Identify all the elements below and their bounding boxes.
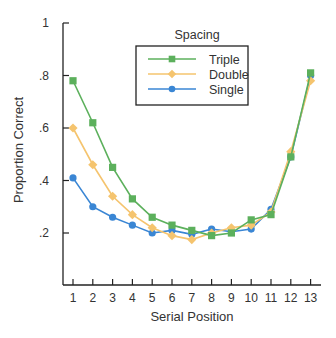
x-tick-label: 13: [304, 291, 318, 305]
y-tick-label: .2: [39, 226, 49, 240]
legend-label: Triple: [209, 53, 240, 67]
x-tick-label: 10: [245, 291, 259, 305]
y-tick-label: .6: [39, 121, 49, 135]
x-tick-label: 7: [188, 291, 195, 305]
square-marker: [307, 69, 314, 76]
line-chart: .2.4.6.8112345678910111213 SpacingTriple…: [0, 0, 336, 338]
square-marker: [188, 227, 195, 234]
x-tick-label: 6: [169, 291, 176, 305]
diamond-marker: [68, 123, 77, 132]
x-tick-label: 2: [89, 291, 96, 305]
square-marker: [267, 211, 274, 218]
y-tick-label: .4: [39, 174, 49, 188]
square-marker: [69, 77, 76, 84]
x-tick-label: 9: [228, 291, 235, 305]
circle-marker: [169, 86, 176, 93]
diamond-marker: [88, 160, 97, 169]
x-tick-label: 8: [208, 291, 215, 305]
x-tick-label: 4: [129, 291, 136, 305]
square-marker: [287, 153, 294, 160]
y-axis-label: Proportion Correct: [11, 97, 26, 204]
square-marker: [248, 216, 255, 223]
square-marker: [89, 119, 96, 126]
square-marker: [168, 222, 175, 229]
x-tick-label: 11: [265, 291, 278, 305]
legend: SpacingTripleDoubleSingle: [136, 28, 249, 105]
square-marker: [129, 195, 136, 202]
circle-marker: [129, 222, 136, 229]
circle-marker: [109, 214, 116, 221]
diamond-marker: [167, 231, 176, 240]
legend-label: Double: [209, 68, 249, 82]
x-tick-label: 3: [109, 291, 116, 305]
x-tick-label: 5: [149, 291, 156, 305]
y-tick-label: 1: [42, 16, 49, 30]
x-tick-label: 1: [70, 291, 77, 305]
square-marker: [169, 56, 176, 63]
square-marker: [228, 229, 235, 236]
legend-label: Single: [209, 83, 244, 97]
x-tick-label: 12: [284, 291, 298, 305]
circle-marker: [89, 203, 96, 210]
legend-title: Spacing: [174, 28, 219, 42]
diamond-marker: [187, 235, 196, 244]
y-tick-label: .8: [39, 69, 49, 83]
circle-marker: [69, 174, 76, 181]
square-marker: [208, 232, 215, 239]
square-marker: [109, 164, 116, 171]
square-marker: [149, 214, 156, 221]
x-axis-label: Serial Position: [150, 309, 233, 324]
